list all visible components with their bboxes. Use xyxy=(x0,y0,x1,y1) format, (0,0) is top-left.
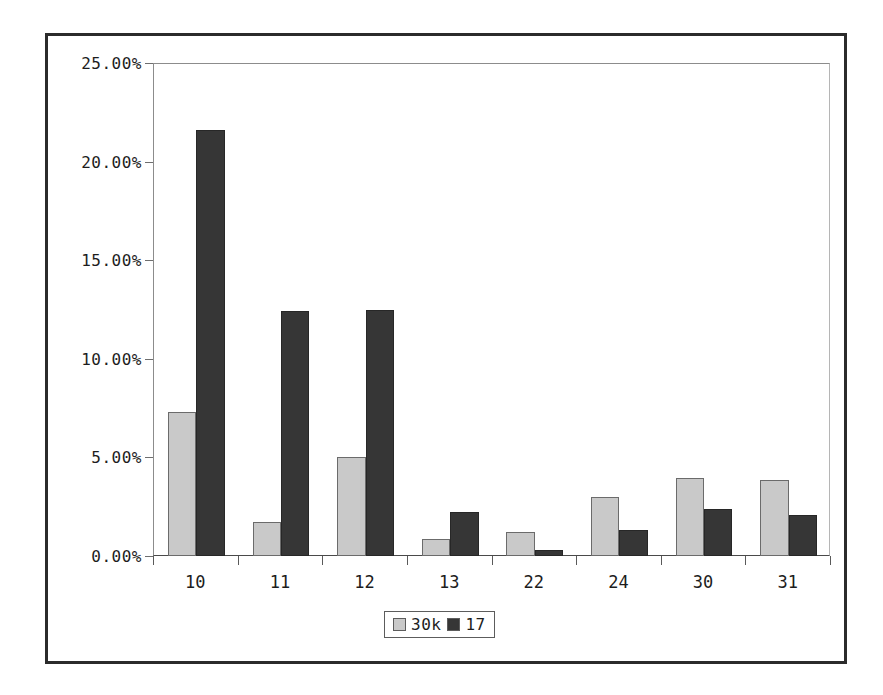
y-axis-tick xyxy=(145,260,153,261)
x-axis-tick xyxy=(153,556,154,565)
x-axis-tick xyxy=(745,556,746,565)
x-axis-tick xyxy=(407,556,408,565)
x-axis-tick xyxy=(492,556,493,565)
legend-entry[interactable]: 17 xyxy=(447,615,485,634)
bar[interactable] xyxy=(366,310,394,557)
bar-group xyxy=(168,64,225,556)
chart-outer-frame: 0.00%5.00%10.00%15.00%20.00%25.00% 10111… xyxy=(45,33,847,664)
bar[interactable] xyxy=(704,509,732,556)
bar-group xyxy=(760,64,817,556)
bar[interactable] xyxy=(281,311,309,556)
y-axis-tick-label: 5.00% xyxy=(50,448,142,467)
chart-plot-wrapper: 0.00%5.00%10.00%15.00%20.00%25.00% 10111… xyxy=(48,36,850,667)
bar[interactable] xyxy=(450,512,478,556)
bar[interactable] xyxy=(619,530,647,556)
x-axis-category-label: 30 xyxy=(693,572,713,592)
x-axis-category-label: 31 xyxy=(777,572,797,592)
bar[interactable] xyxy=(591,497,619,556)
x-axis-tick xyxy=(830,556,831,565)
x-axis-category-label: 12 xyxy=(354,572,374,592)
y-axis-tick xyxy=(145,556,153,557)
bar-group xyxy=(337,64,394,556)
legend-entry[interactable]: 30k xyxy=(393,615,441,634)
bar[interactable] xyxy=(422,539,450,556)
x-axis-category-label: 24 xyxy=(608,572,628,592)
y-axis-tick-label: 20.00% xyxy=(50,152,142,171)
x-axis-tick xyxy=(238,556,239,565)
x-axis-category-label: 10 xyxy=(185,572,205,592)
bar[interactable] xyxy=(676,478,704,556)
bar[interactable] xyxy=(253,522,281,557)
bar[interactable] xyxy=(337,457,365,556)
bar-group xyxy=(253,64,310,556)
bar-group xyxy=(591,64,648,556)
bar[interactable] xyxy=(168,412,196,556)
y-axis-tick-label: 25.00% xyxy=(50,54,142,73)
legend-label: 17 xyxy=(465,615,485,634)
x-axis-category-label: 22 xyxy=(524,572,544,592)
x-axis-tick xyxy=(322,556,323,565)
x-axis-category-label: 11 xyxy=(270,572,290,592)
y-axis-tick-label: 15.00% xyxy=(50,251,142,270)
y-axis-tick xyxy=(145,63,153,64)
legend-label: 30k xyxy=(411,615,441,634)
bar[interactable] xyxy=(535,550,563,556)
bar-group xyxy=(506,64,563,556)
y-axis-tick xyxy=(145,457,153,458)
bar[interactable] xyxy=(196,130,224,556)
legend-swatch-icon xyxy=(447,618,460,631)
bars-layer xyxy=(154,64,829,556)
chart-legend[interactable]: 30k17 xyxy=(384,611,495,638)
x-axis-category-label: 13 xyxy=(439,572,459,592)
bar[interactable] xyxy=(760,480,788,556)
y-axis-tick-label: 0.00% xyxy=(50,547,142,566)
bar[interactable] xyxy=(506,532,534,556)
x-axis-tick xyxy=(576,556,577,565)
y-axis-tick xyxy=(145,162,153,163)
bar-group xyxy=(422,64,479,556)
bar-group xyxy=(676,64,733,556)
legend-swatch-icon xyxy=(393,618,406,631)
bar[interactable] xyxy=(789,515,817,556)
y-axis-tick xyxy=(145,359,153,360)
y-axis-tick-label: 10.00% xyxy=(50,349,142,368)
x-axis-tick xyxy=(661,556,662,565)
